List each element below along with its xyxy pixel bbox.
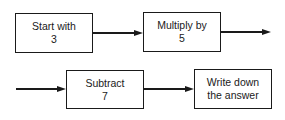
step-label: Write down: [207, 76, 259, 89]
step-label: Subtract: [85, 77, 124, 90]
step-write-down-the-answer: Write down the answer: [194, 69, 272, 109]
step-value: 7: [102, 90, 108, 103]
arrow-4-head-icon: [185, 86, 194, 92]
arrow-1-head-icon: [134, 30, 143, 36]
arrow-3-shaft: [16, 88, 58, 90]
step-label: Multiply by: [157, 19, 207, 32]
arrow-1-shaft: [93, 32, 135, 34]
step-subtract-7: Subtract 7: [66, 70, 144, 109]
step-start-with-3: Start with 3: [15, 13, 93, 53]
step-value: the answer: [207, 89, 258, 102]
arrow-2-shaft: [221, 31, 263, 33]
step-value: 3: [51, 33, 57, 46]
step-label: Start with: [32, 20, 76, 33]
step-value: 5: [179, 32, 185, 45]
arrow-4-shaft: [144, 88, 186, 90]
step-multiply-by-5: Multiply by 5: [143, 12, 221, 52]
arrow-2-head-icon: [262, 29, 271, 35]
arrow-3-head-icon: [57, 86, 66, 92]
